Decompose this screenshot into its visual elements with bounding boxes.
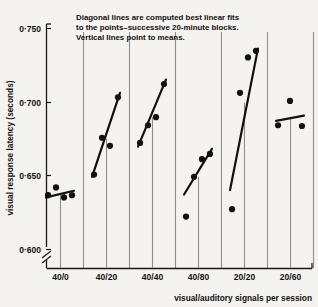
data-point-40-40-block1 — [137, 140, 143, 146]
data-point-20-20-block1 — [229, 206, 235, 212]
x-tick-label-40-0: 40/0 — [52, 272, 69, 282]
x-tick-label-20-60: 20/60 — [280, 272, 302, 282]
annotation-line-3: Vertical lines point to means. — [76, 33, 185, 42]
y-tick-label-0: 0·750 — [19, 24, 41, 34]
data-point-40-0-block4 — [69, 192, 75, 198]
data-point-20-60-block3 — [299, 123, 305, 129]
y-tick-label-1: 0·700 — [19, 98, 41, 108]
x-tick-label-40-20: 40/20 — [96, 272, 118, 282]
data-point-40-20-block4 — [115, 94, 121, 100]
data-point-40-40-block2 — [145, 122, 151, 128]
data-point-20-60-block1 — [275, 122, 281, 128]
y-tick-label-2: 0·650 — [19, 171, 41, 181]
data-point-40-80-block1 — [183, 213, 189, 219]
y-tick-label-3: 0·600 — [19, 245, 41, 255]
latency-scatter-chart: 0·7500·7000·6500·60040/040/2040/4040/802… — [0, 0, 318, 307]
x-tick-label-40-80: 40/80 — [188, 272, 210, 282]
data-point-40-0-block3 — [61, 194, 67, 200]
data-point-40-80-block3 — [199, 156, 205, 162]
annotation-line-2: to the points–successive 20-minute block… — [76, 23, 239, 32]
data-point-40-80-block4 — [207, 151, 213, 157]
data-point-40-40-block3 — [153, 114, 159, 120]
data-point-40-20-block2 — [99, 135, 105, 141]
data-point-20-20-block2 — [237, 90, 243, 96]
data-point-40-0-block2 — [53, 184, 59, 190]
data-point-20-60-block2 — [287, 98, 293, 104]
x-tick-label-40-40: 40/40 — [142, 272, 164, 282]
data-point-20-20-block4 — [253, 48, 259, 54]
x-tick-label-20-20: 20/20 — [234, 272, 256, 282]
data-point-20-20-block3 — [245, 54, 251, 60]
y-axis-title: visual response latency (seconds) — [5, 80, 15, 215]
x-axis-title: visual/auditory signals per session — [174, 293, 312, 303]
data-point-40-80-block2 — [191, 174, 197, 180]
annotation-line-1: Diagonal lines are computed best linear … — [76, 13, 240, 22]
chart-container: 0·7500·7000·6500·60040/040/2040/4040/802… — [0, 0, 318, 307]
data-point-40-40-block4 — [161, 81, 167, 87]
data-point-40-0-block1 — [45, 192, 51, 198]
data-point-40-20-block3 — [107, 143, 113, 149]
data-point-40-20-block1 — [91, 171, 97, 177]
